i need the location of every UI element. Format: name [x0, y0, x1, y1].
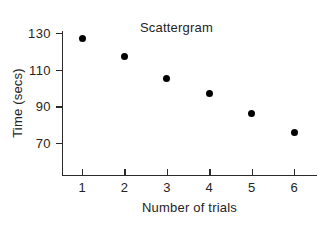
x-tick-label-3: 3 [157, 181, 177, 194]
x-tick-mark-6 [294, 169, 295, 175]
x-tick-label-5: 5 [242, 181, 262, 194]
data-point [248, 110, 255, 117]
data-point [291, 129, 298, 136]
y-axis-label: Time (secs) [11, 43, 25, 163]
x-tick-mark-2 [124, 169, 125, 175]
x-tick-mark-4 [209, 169, 210, 175]
y-axis-line [62, 31, 63, 176]
x-tick-mark-3 [167, 169, 168, 175]
x-axis-line [62, 175, 317, 176]
data-point [206, 90, 213, 97]
data-point [79, 35, 86, 42]
x-tick-label-1: 1 [72, 181, 92, 194]
x-tick-label-6: 6 [284, 181, 304, 194]
data-point [163, 75, 170, 82]
x-tick-mark-5 [252, 169, 253, 175]
x-tick-mark-1 [82, 169, 83, 175]
x-tick-label-2: 2 [114, 181, 134, 194]
scattergram-figure: 130 110 90 70 1 2 3 4 5 6 Scattergram Nu… [0, 0, 323, 225]
data-point [121, 53, 128, 60]
y-tick-mark-110 [56, 70, 62, 71]
y-tick-mark-130 [56, 33, 62, 34]
x-axis-label: Number of trials [62, 201, 317, 215]
y-tick-mark-70 [56, 143, 62, 144]
x-tick-label-4: 4 [199, 181, 219, 194]
y-tick-label-130: 130 [11, 27, 51, 40]
chart-title: Scattergram [140, 21, 213, 35]
y-tick-mark-90 [56, 106, 62, 107]
